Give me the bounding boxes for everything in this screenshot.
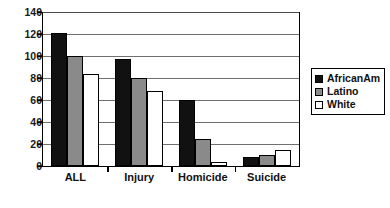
bar-all-white (83, 74, 99, 166)
bar-chart: 020406080100120140 ALLInjuryHomicideSuic… (0, 0, 390, 208)
bar-injury-africanam (115, 59, 131, 166)
legend-item-africanam: AfricanAm (315, 72, 380, 85)
legend-item-white: White (315, 98, 380, 111)
legend-label-latino: Latino (327, 86, 359, 97)
bar-group-all (44, 12, 108, 166)
bar-suicide-africanam (243, 157, 259, 166)
bar-homicide-white (211, 162, 227, 166)
bar-injury-latino (131, 78, 147, 166)
x-tick-label-suicide: Suicide (227, 172, 307, 183)
bar-all-latino (67, 56, 83, 166)
bar-homicide-africanam (179, 100, 195, 166)
bar-suicide-white (275, 150, 291, 167)
legend-swatch-latino (315, 88, 323, 96)
legend-item-latino: Latino (315, 85, 380, 98)
legend-swatch-white (315, 101, 323, 109)
bar-suicide-latino (259, 155, 275, 166)
bar-all-africanam (51, 33, 67, 166)
bar-homicide-latino (195, 139, 211, 167)
bar-group-homicide (171, 12, 235, 166)
bar-injury-white (147, 91, 163, 166)
bar-group-suicide (235, 12, 299, 166)
legend-label-white: White (327, 99, 356, 110)
legend-label-africanam: AfricanAm (327, 73, 380, 84)
bar-groups (44, 12, 299, 166)
legend-swatch-africanam (315, 75, 323, 83)
bar-group-injury (107, 12, 171, 166)
legend: AfricanAm Latino White (311, 68, 385, 115)
